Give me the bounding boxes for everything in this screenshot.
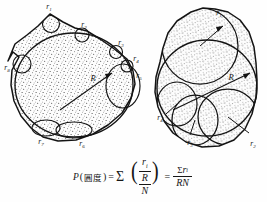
left-label-r8: r8 (4, 63, 10, 73)
roundness-formula: P(圓度)= Σ ( ri R ) N = Σri RN (73, 157, 194, 196)
formula-inner-den: R (139, 171, 151, 184)
formula-rhs-denominator: RN (173, 176, 192, 189)
formula-lhs-close-paren: ) (103, 171, 106, 182)
formula-sigma-1: Σ (116, 170, 124, 184)
left-label-r5: r5 (136, 71, 142, 81)
formula-equals-1: = (108, 171, 114, 182)
right-label-r1: r1 (216, 8, 221, 18)
formula-outer-denominator: N (139, 184, 152, 197)
formula-lhs-P: P (73, 172, 79, 182)
formula-lhs-open-paren: ( (80, 171, 83, 182)
formula-inner-open-paren: ( (131, 161, 138, 179)
formula-inner-fraction: ri R (139, 157, 151, 183)
formula-equals-2: = (165, 171, 171, 182)
formula-inner-num: ri (139, 157, 151, 170)
right-label-R: R (227, 72, 234, 82)
left-label-r3: r3 (118, 38, 124, 48)
formula-r-subscript: i (146, 163, 148, 169)
formula-outer-fraction: ( ri R ) N (128, 157, 161, 196)
formula-container: P(圓度)= Σ ( ri R ) N = Σri RN (0, 152, 267, 202)
formula-rhs-fraction: Σri RN (173, 165, 192, 189)
formula-rhs-numerator: Σri (174, 165, 191, 177)
left-grain-group: r1 r2 r3 r4 r5 r6 r7 r8 R (4, 2, 142, 149)
left-label-r6: r6 (79, 139, 85, 149)
right-grain-group: r1 r2 r3 r4 R (155, 8, 258, 149)
left-label-r7: r7 (38, 137, 44, 147)
formula-rhs-subscript: i (186, 167, 188, 173)
left-label-r4: r4 (133, 54, 139, 64)
left-label-R: R (89, 73, 96, 83)
formula-inner-close-paren: ) (152, 161, 159, 179)
left-label-r1: r1 (46, 2, 51, 12)
left-label-r2: r2 (81, 20, 87, 30)
roundness-figure: r1 r2 r3 r4 r5 r6 r7 r8 R (0, 0, 267, 202)
right-label-r2: r2 (250, 139, 256, 149)
formula-lhs-cjk: 圓度 (84, 171, 102, 183)
formula-outer-numerator: ( ri R ) (128, 157, 161, 184)
